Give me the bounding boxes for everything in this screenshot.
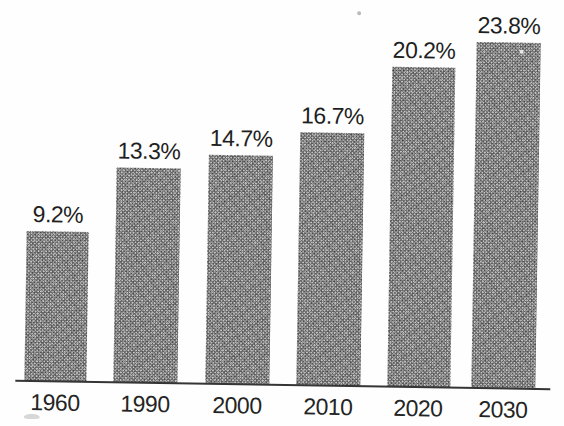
bar-2030 — [471, 42, 540, 389]
scan-speck — [520, 50, 524, 54]
x-tick-label-2000: 2000 — [212, 394, 262, 418]
x-tick-label-2020: 2020 — [393, 397, 443, 421]
bar-value-label-1960: 9.2% — [33, 203, 84, 227]
bar-group-2000: 14.7% — [205, 155, 273, 385]
x-tick-label-2010: 2010 — [303, 395, 353, 419]
scan-speck — [357, 11, 361, 15]
bar-2000 — [205, 155, 273, 385]
bar-1960 — [24, 231, 88, 382]
bar-2020 — [387, 67, 455, 388]
bar-value-label-2030: 23.8% — [477, 14, 540, 38]
bar-group-2010: 16.7% — [296, 132, 364, 386]
bar-value-label-2010: 16.7% — [301, 104, 364, 128]
bar-group-2020: 20.2% — [387, 67, 455, 388]
bar-group-1990: 13.3% — [113, 167, 180, 383]
x-tick-label-1960: 1960 — [30, 391, 80, 415]
bar-group-2030: 23.8% — [471, 42, 540, 389]
bar-value-label-2000: 14.7% — [210, 127, 273, 151]
bar-value-label-1990: 13.3% — [117, 139, 180, 163]
bar-group-1960: 9.2% — [24, 231, 88, 382]
bar-chart: 9.2% 13.3% 14.7% 16.7% 20.2% 23.8% — [0, 0, 564, 426]
scanned-page: 9.2% 13.3% 14.7% 16.7% 20.2% 23.8% — [0, 0, 564, 426]
bar-2010 — [296, 132, 364, 386]
x-tick-label-1990: 1990 — [120, 392, 170, 416]
x-tick-label-2030: 2030 — [478, 398, 528, 422]
scan-speck — [24, 414, 40, 419]
bar-1990 — [113, 167, 180, 383]
plot-area: 9.2% 13.3% 14.7% 16.7% 20.2% 23.8% — [0, 0, 564, 426]
x-axis-line — [15, 380, 550, 391]
bar-value-label-2020: 20.2% — [393, 39, 456, 63]
